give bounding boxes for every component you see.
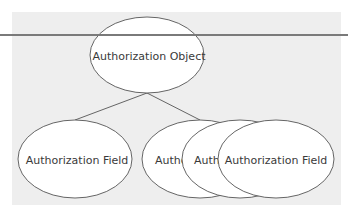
authorization-field-node-4: Authorization Field (218, 120, 334, 198)
authorization-field-label-4: Authorization Field (225, 154, 328, 167)
edge-root-to-field-2 (147, 93, 200, 120)
edge-root-to-field-1 (75, 93, 147, 120)
authorization-field-label-3: Auth (194, 154, 220, 167)
authorization-object-node: Authorization Object (90, 17, 206, 93)
authorization-field-node-1: Authorization Field (18, 120, 132, 198)
authorization-object-label: Authorization Object (93, 50, 207, 63)
authorization-field-label-1: Authorization Field (26, 154, 129, 167)
hierarchy-diagram: Autho Auth Authorization Field Authoriza… (0, 0, 348, 213)
horizontal-rule (0, 34, 348, 36)
